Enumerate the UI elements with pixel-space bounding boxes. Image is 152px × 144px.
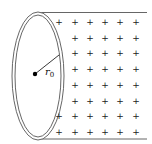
positive-charge-icon: + xyxy=(86,127,94,137)
positive-charge-icon: + xyxy=(116,64,124,74)
positive-charge-icon: + xyxy=(101,127,109,137)
positive-charge-icon: + xyxy=(132,17,140,27)
positive-charge-icon: + xyxy=(101,17,109,27)
positive-charge-icon: + xyxy=(86,64,94,74)
positive-charge-icon: + xyxy=(71,111,79,121)
positive-charge-icon: + xyxy=(132,96,140,106)
positive-charge-icon: + xyxy=(101,111,109,121)
positive-charge-icon: + xyxy=(71,96,79,106)
positive-charge-icon: + xyxy=(132,80,140,90)
positive-charge-icon: + xyxy=(101,64,109,74)
positive-charge-icon: + xyxy=(101,96,109,106)
positive-charge-icon: + xyxy=(101,33,109,43)
positive-charge-icon: + xyxy=(86,80,94,90)
positive-charge-icon: + xyxy=(86,96,94,106)
positive-charge-icon: + xyxy=(55,111,63,121)
positive-charge-icon: + xyxy=(116,48,124,58)
positive-charge-icon: + xyxy=(71,64,79,74)
positive-charge-icon: + xyxy=(71,33,79,43)
positive-charge-icon: + xyxy=(55,17,63,27)
positive-charge-icon: + xyxy=(132,48,140,58)
positive-charge-icon: + xyxy=(101,80,109,90)
cylinder-diagram: r0 +++++++++++++++++++++++++++++++++++++… xyxy=(0,0,152,144)
positive-charge-icon: + xyxy=(71,17,79,27)
positive-charge-icon: + xyxy=(116,127,124,137)
positive-charge-icon: + xyxy=(86,111,94,121)
positive-charge-icon: + xyxy=(71,80,79,90)
charge-grid: ++++++++++++++++++++++++++++++++++++++++… xyxy=(55,17,140,137)
positive-charge-icon: + xyxy=(132,64,140,74)
positive-charge-icon: + xyxy=(71,127,79,137)
positive-charge-icon: + xyxy=(116,80,124,90)
positive-charge-icon: + xyxy=(132,33,140,43)
positive-charge-icon: + xyxy=(101,48,109,58)
center-dot xyxy=(33,72,37,76)
positive-charge-icon: + xyxy=(86,33,94,43)
positive-charge-icon: + xyxy=(116,111,124,121)
positive-charge-icon: + xyxy=(86,17,94,27)
positive-charge-icon: + xyxy=(116,96,124,106)
positive-charge-icon: + xyxy=(71,48,79,58)
positive-charge-icon: + xyxy=(86,48,94,58)
positive-charge-icon: + xyxy=(55,127,63,137)
positive-charge-icon: + xyxy=(116,33,124,43)
positive-charge-icon: + xyxy=(132,111,140,121)
positive-charge-icon: + xyxy=(116,17,124,27)
positive-charge-icon: + xyxy=(132,127,140,137)
